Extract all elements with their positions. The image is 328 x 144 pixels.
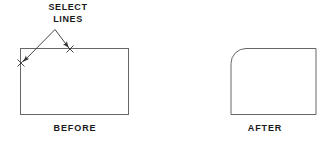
fillet-instruction-diagram: SELECT LINES BEFORE AFTER — [0, 0, 328, 144]
diagram-canvas: SELECT LINES BEFORE AFTER — [0, 0, 328, 144]
leader-lines — [24, 30, 69, 62]
leader-line-to-left-edge — [24, 30, 56, 62]
caption-before: BEFORE — [54, 123, 97, 133]
caption-after: AFTER — [248, 123, 283, 133]
before-rectangle — [21, 49, 129, 115]
before-group: SELECT LINES BEFORE — [18, 2, 129, 133]
annotation-line-2: LINES — [53, 14, 83, 24]
leader-line-to-top-edge — [55, 30, 69, 48]
after-shape-filleted — [231, 49, 316, 115]
annotation-line-1: SELECT — [48, 2, 87, 12]
after-group: AFTER — [231, 49, 316, 134]
